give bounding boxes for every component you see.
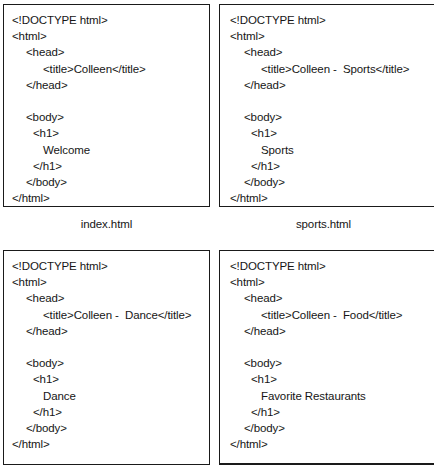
code-line: </html> <box>4 436 209 452</box>
code-box-index: <!DOCTYPE html><html><head><title>Collee… <box>3 4 210 207</box>
code-line: </body> <box>4 174 209 190</box>
code-line: <head> <box>220 44 434 60</box>
code-line: </h1> <box>4 404 209 420</box>
caption-sports: sports.html <box>219 218 428 230</box>
code-line: <body> <box>4 355 209 371</box>
code-line <box>4 339 209 355</box>
code-listing-dance: <!DOCTYPE html><html><head><title>Collee… <box>4 251 209 452</box>
code-line: </h1> <box>4 158 209 174</box>
code-line: </head> <box>4 77 209 93</box>
code-line: Favorite Restaurants <box>220 388 434 404</box>
code-line: <h1> <box>4 125 209 141</box>
code-line: <title>Colleen - Food</title> <box>220 307 434 323</box>
code-line: <h1> <box>220 125 434 141</box>
code-line: <html> <box>4 274 209 290</box>
code-line: <html> <box>4 28 209 44</box>
code-line: <title>Colleen - Sports</title> <box>220 61 434 77</box>
code-listing-sports: <!DOCTYPE html><html><head><title>Collee… <box>220 5 434 206</box>
caption-index: index.html <box>3 218 210 230</box>
code-line: </body> <box>220 420 434 436</box>
code-line: <h1> <box>4 371 209 387</box>
code-line: <!DOCTYPE html> <box>220 258 434 274</box>
code-line: </h1> <box>220 158 434 174</box>
code-line: <body> <box>4 109 209 125</box>
code-line: <html> <box>220 274 434 290</box>
code-line: <!DOCTYPE html> <box>4 12 209 28</box>
code-line: Welcome <box>4 142 209 158</box>
code-listing-food: <!DOCTYPE html><html><head><title>Collee… <box>220 251 434 452</box>
code-line: </html> <box>220 436 434 452</box>
code-line <box>4 93 209 109</box>
code-line: </body> <box>4 420 209 436</box>
code-box-sports: <!DOCTYPE html><html><head><title>Collee… <box>219 4 434 207</box>
code-line: </html> <box>220 190 434 206</box>
code-line: <head> <box>4 44 209 60</box>
code-line: </body> <box>220 174 434 190</box>
code-line: <title>Colleen</title> <box>4 61 209 77</box>
code-line: <head> <box>220 290 434 306</box>
code-line: </head> <box>4 323 209 339</box>
code-line: Dance <box>4 388 209 404</box>
code-line: </html> <box>4 190 209 206</box>
code-line: </h1> <box>220 404 434 420</box>
code-line: <body> <box>220 109 434 125</box>
code-box-food: <!DOCTYPE html><html><head><title>Collee… <box>219 250 434 465</box>
code-listing-index: <!DOCTYPE html><html><head><title>Collee… <box>4 5 209 206</box>
code-line: <!DOCTYPE html> <box>4 258 209 274</box>
code-line: <title>Colleen - Dance</title> <box>4 307 209 323</box>
code-line: <html> <box>220 28 434 44</box>
code-box-dance: <!DOCTYPE html><html><head><title>Collee… <box>3 250 210 465</box>
code-line: <!DOCTYPE html> <box>220 12 434 28</box>
code-line: <h1> <box>220 371 434 387</box>
code-line <box>220 339 434 355</box>
code-line: <body> <box>220 355 434 371</box>
code-line <box>220 93 434 109</box>
code-line: </head> <box>220 77 434 93</box>
code-line: <head> <box>4 290 209 306</box>
code-line: </head> <box>220 323 434 339</box>
code-line: Sports <box>220 142 434 158</box>
